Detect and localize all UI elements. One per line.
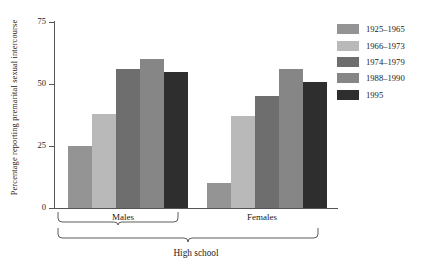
legend-label: 1974–1979 [366,57,405,67]
legend-swatch-icon [337,24,359,34]
legend-label: 1995 [366,90,383,100]
bar-males-1966–1973 [92,114,116,208]
overall-group-label: High school [54,248,338,258]
y-tick-label-50: 50 [38,78,47,88]
legend-label: 1988–1990 [366,73,405,83]
y-axis-line [54,21,55,209]
legend-item-1988–1990[interactable]: 1988–1990 [337,70,405,86]
bar-females-1966–1973 [231,116,255,208]
legend-item-1995[interactable]: 1995 [337,87,405,103]
legend-item-1966–1973[interactable]: 1966–1973 [337,37,405,53]
bar-males-1988–1990 [140,59,164,208]
bar-males-1925–1965 [68,146,92,208]
bar-females-1995 [303,82,327,208]
bar-males-1995 [164,72,188,208]
legend-swatch-icon [337,90,359,100]
bar-males-1974–1979 [116,69,140,208]
y-tick-label-75: 75 [38,16,47,26]
y-tick-label-0: 0 [42,202,46,212]
legend-label: 1966–1973 [366,41,405,51]
bar-females-1988–1990 [279,69,303,208]
y-tick-25: 25 [49,146,54,147]
legend-swatch-icon [337,57,359,67]
plot-area: 75 50 25 0 Males Females [54,22,326,208]
x-axis-line [50,208,338,209]
bar-females-1925–1965 [207,183,231,208]
y-tick-label-25: 25 [38,140,47,150]
y-axis-title: Percentage reporting premarital sexual i… [10,3,19,213]
y-tick-75: 75 [49,22,54,23]
y-tick-50: 50 [49,84,54,85]
y-tick-0: 0 [49,208,54,209]
legend: 1925–19651966–19731974–19791988–19901995 [337,21,405,103]
legend-item-1925–1965[interactable]: 1925–1965 [337,21,405,37]
group-label-females: Females [202,212,322,222]
bar-chart: Percentage reporting premarital sexual i… [0,0,422,269]
group-brace-males [57,212,181,225]
group-brace-overall [57,228,321,242]
legend-item-1974–1979[interactable]: 1974–1979 [337,54,405,70]
bar-females-1974–1979 [255,96,279,208]
legend-swatch-icon [337,41,359,51]
legend-label: 1925–1965 [366,24,405,34]
legend-swatch-icon [337,73,359,83]
